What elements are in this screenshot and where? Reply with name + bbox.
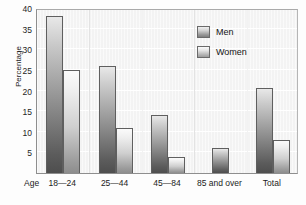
bar-men <box>46 16 63 173</box>
legend-label-men: Men <box>216 27 234 37</box>
y-axis-tick-label: 25 <box>23 66 32 76</box>
bar-men <box>256 88 273 173</box>
bar-women <box>63 70 80 173</box>
y-axis-tick-label: 40 <box>23 4 32 14</box>
x-axis-tick-label: 25—44 <box>101 178 128 188</box>
bar-women <box>273 140 290 173</box>
bar-men <box>151 115 168 173</box>
legend-item-women: Women <box>197 46 247 58</box>
bar-women <box>116 128 133 173</box>
y-axis-tick-label: 15 <box>23 107 32 117</box>
y-axis-tick-label: 5 <box>27 148 32 158</box>
legend-item-men: Men <box>197 26 247 38</box>
x-axis-tick-label: 45—84 <box>153 178 180 188</box>
y-axis-tick-label: 35 <box>23 25 32 35</box>
y-axis-ticks: 510152025303540 <box>14 8 34 174</box>
bar-chart: Percentage 510152025303540 Men Women Age… <box>0 0 306 205</box>
bar-men <box>212 148 229 173</box>
x-axis-labels: Age 18—2425—4445—8485 and overTotal <box>0 178 306 200</box>
bar-men <box>99 66 116 173</box>
x-axis-tick-label: Total <box>263 178 281 188</box>
x-axis-tick-label: 18—24 <box>48 178 75 188</box>
plot-area <box>36 9 298 174</box>
y-axis-tick-label: 10 <box>23 128 32 138</box>
x-axis-caption: Age <box>24 178 39 188</box>
legend-label-women: Women <box>216 47 247 57</box>
legend-swatch-men-icon <box>197 26 210 38</box>
x-axis-tick-label: 85 and over <box>197 178 242 188</box>
bar-women <box>168 157 185 174</box>
bar-series-container <box>37 10 297 173</box>
legend-swatch-women-icon <box>197 46 210 58</box>
y-axis-tick-label: 20 <box>23 87 32 97</box>
legend: Men Women <box>197 26 247 58</box>
y-axis-tick-label: 30 <box>23 45 32 55</box>
